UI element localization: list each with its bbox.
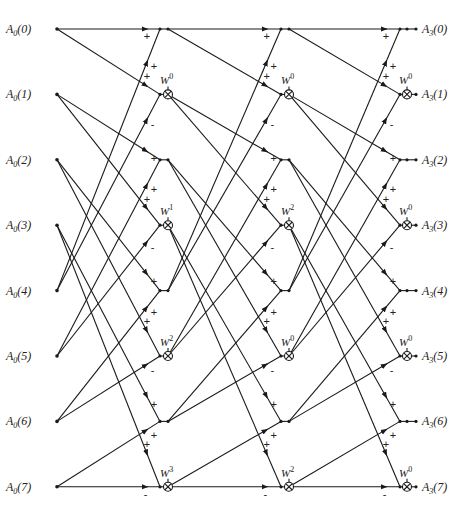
arrow-head	[386, 453, 387, 456]
minus-sign: -	[263, 488, 267, 500]
stage-output-node	[166, 289, 169, 292]
plus-sign: +	[151, 152, 157, 164]
arrow-head	[147, 86, 148, 87]
diff-node	[398, 485, 401, 488]
diff-node	[158, 224, 161, 227]
plus-sign: +	[144, 193, 150, 205]
arrow-head	[266, 60, 267, 63]
arrow-head	[386, 86, 387, 87]
plus-sign: +	[151, 429, 157, 441]
plus-sign: +	[151, 183, 157, 195]
arrow-head	[386, 60, 387, 63]
twiddle-label: W0	[399, 334, 412, 348]
arrow-head	[266, 183, 267, 185]
plus-sign: +	[144, 438, 150, 450]
sum-node	[398, 27, 401, 30]
diff-node	[158, 354, 161, 357]
output-node	[414, 27, 417, 30]
plus-sign: +	[270, 429, 276, 441]
plus-sign: +	[263, 193, 269, 205]
input-label: A0(5)	[5, 349, 31, 365]
plus-sign: +	[270, 152, 276, 164]
plus-sign: +	[263, 315, 269, 327]
plus-sign: +	[383, 315, 389, 327]
arrow-head	[386, 429, 387, 430]
plus-sign: +	[263, 438, 269, 450]
plus-sign: +	[144, 315, 150, 327]
output-label: A3(5)	[421, 349, 447, 365]
plus-sign: +	[383, 30, 389, 42]
arrow-head	[386, 396, 387, 398]
minus-sign: -	[151, 241, 155, 253]
plus-sign: +	[270, 275, 276, 287]
plus-sign: +	[151, 306, 157, 318]
arrow-head	[386, 241, 387, 242]
twiddle-label: W2	[281, 203, 294, 217]
input-node	[55, 485, 59, 489]
arrow-head	[266, 306, 267, 307]
diff-node	[279, 224, 282, 227]
diff-node	[158, 93, 161, 96]
arrow-head	[386, 208, 387, 209]
input-label: A0(0)	[5, 22, 31, 38]
plus-sign: +	[390, 60, 396, 72]
wire	[168, 225, 281, 356]
arrow-head	[266, 364, 267, 365]
arrow-head	[386, 364, 387, 365]
stage-output-node	[287, 158, 290, 161]
stage-output-node	[287, 289, 290, 292]
twiddle-label: W0	[281, 334, 294, 348]
plus-sign: +	[390, 152, 396, 164]
arrow-head	[266, 241, 267, 242]
twiddle-label: W0	[399, 203, 412, 217]
wire	[57, 160, 160, 291]
sum-node	[398, 420, 401, 423]
diff-node	[398, 224, 401, 227]
input-node	[55, 354, 59, 358]
arrow-head	[386, 183, 387, 185]
output-node	[414, 289, 417, 292]
output-node	[414, 354, 417, 357]
plus-sign: +	[270, 306, 276, 318]
output-label: A3(1)	[421, 87, 447, 103]
arrow-head	[147, 183, 148, 185]
twiddle-label: W0	[399, 465, 412, 479]
wire	[168, 94, 281, 225]
wire	[168, 160, 281, 291]
output-label: A3(0)	[421, 22, 447, 38]
minus-sign: -	[270, 364, 274, 376]
plus-sign: +	[263, 70, 269, 82]
arrow-head	[147, 60, 148, 63]
wires-layer	[57, 29, 416, 487]
output-node	[414, 93, 417, 96]
diff-node	[398, 93, 401, 96]
plus-sign: +	[151, 275, 157, 287]
input-node	[55, 420, 59, 424]
minus-sign: -	[383, 488, 387, 500]
wire	[289, 356, 400, 421]
plus-sign: +	[270, 398, 276, 410]
arrow-head	[266, 151, 267, 152]
input-label: A0(1)	[5, 87, 31, 103]
wire	[168, 421, 281, 486]
output-node	[414, 485, 417, 488]
stage-output-node	[405, 158, 408, 161]
arrow-head	[386, 330, 387, 332]
arrow-head	[147, 241, 148, 242]
arrow-head	[386, 118, 387, 120]
input-label: A0(7)	[5, 480, 31, 496]
stage-output-node	[166, 420, 169, 423]
arrow-head	[147, 118, 148, 120]
minus-sign: -	[390, 118, 394, 130]
wire	[168, 356, 281, 421]
plus-sign: +	[270, 60, 276, 72]
plus-sign: +	[383, 70, 389, 82]
stage-output-node	[166, 158, 169, 161]
arrow-head	[266, 330, 267, 332]
wire	[289, 160, 400, 291]
wire	[57, 94, 160, 159]
diff-node	[398, 354, 401, 357]
output-label: A3(2)	[421, 153, 447, 169]
arrow-head	[147, 364, 148, 365]
sum-node	[158, 420, 161, 423]
